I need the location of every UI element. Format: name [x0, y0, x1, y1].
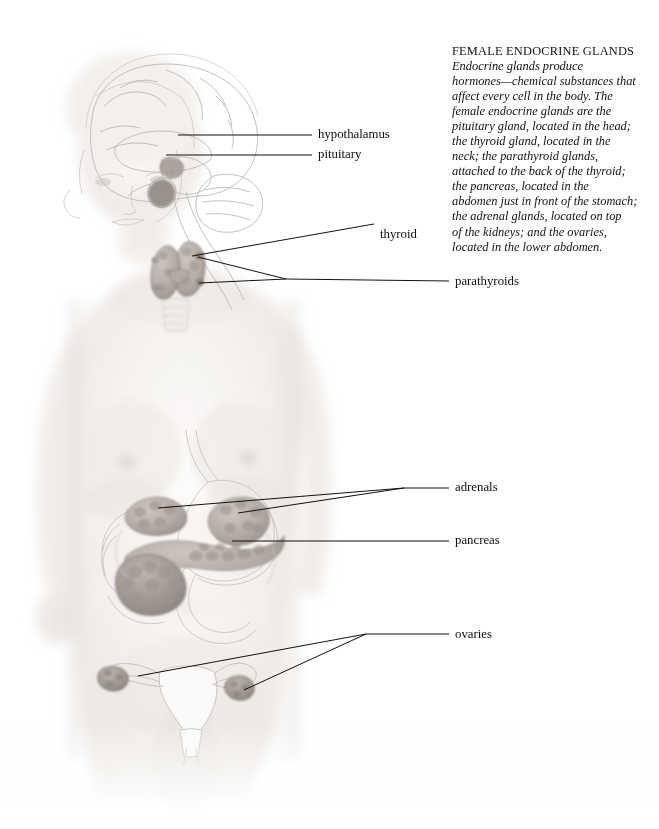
leader-parathyroids-stem [286, 279, 449, 281]
label-thyroid: thyroid [380, 228, 417, 241]
caption-block: FEMALE ENDOCRINE GLANDS Endocrine glands… [452, 44, 652, 255]
caption-line: located in the lower abdomen. [452, 240, 652, 255]
label-parathyroids: parathyroids [455, 275, 519, 288]
caption-line: pituitary gland, located in the head; [452, 119, 652, 134]
caption-line: female endocrine glands are the [452, 104, 652, 119]
caption-line: hormones—chemical substances that [452, 74, 652, 89]
caption-line: of the kidneys; and the ovaries, [452, 225, 652, 240]
caption-line: attached to the back of the thyroid; [452, 164, 652, 179]
caption-line: affect every cell in the body. The [452, 89, 652, 104]
label-hypothalamus: hypothalamus [318, 128, 390, 141]
label-adrenals: adrenals [455, 481, 498, 494]
bottom-fade [0, 720, 659, 829]
illustration-page: FEMALE ENDOCRINE GLANDS Endocrine glands… [0, 0, 659, 829]
caption-line: Endocrine glands produce [452, 59, 652, 74]
caption-title: FEMALE ENDOCRINE GLANDS [452, 44, 652, 59]
label-pancreas: pancreas [455, 534, 500, 547]
caption-line: abdomen just in front of the stomach; [452, 194, 652, 209]
label-ovaries: ovaries [455, 628, 492, 641]
leader-thyroid [192, 224, 374, 256]
caption-line: neck; the parathyroid glands, [452, 149, 652, 164]
caption-body: Endocrine glands produce hormones—chemic… [452, 59, 652, 255]
caption-line: the thyroid gland, located in the [452, 134, 652, 149]
caption-line: the adrenal glands, located on top [452, 209, 652, 224]
label-pituitary: pituitary [318, 148, 361, 161]
caption-line: the pancreas, located in the [452, 179, 652, 194]
